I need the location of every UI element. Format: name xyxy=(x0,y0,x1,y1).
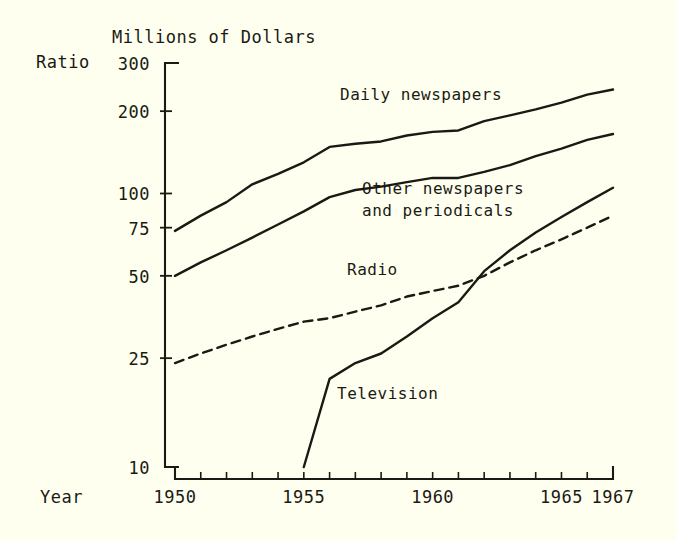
data-series xyxy=(175,90,613,467)
series-line-daily-newspapers xyxy=(175,90,613,231)
y-axis-line xyxy=(165,63,179,467)
series-line-television xyxy=(304,188,613,467)
series-line-other-newspapers-and-periodicals xyxy=(175,134,613,276)
chart-figure: Millions of Dollars Ratio Year 300200100… xyxy=(0,0,676,541)
x-axis-line xyxy=(175,466,613,479)
axes xyxy=(160,63,613,479)
plot-canvas xyxy=(0,0,676,541)
series-line-radio xyxy=(175,216,613,363)
